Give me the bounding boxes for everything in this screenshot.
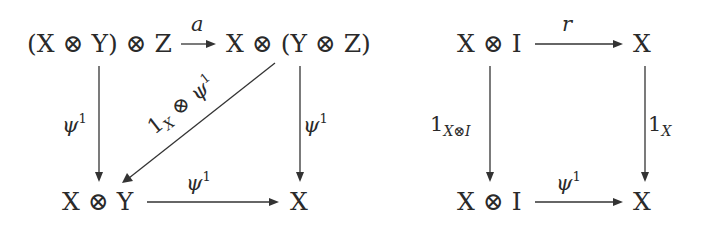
node-text: X [633, 187, 651, 216]
label-psi-bottom: ψ1 [186, 170, 211, 194]
superscript: 1 [319, 111, 327, 126]
node-x-y: X ⊗ Y [62, 189, 133, 214]
psi-symbol: ψ [303, 113, 319, 137]
superscript: 1 [78, 111, 86, 126]
node-x: X [290, 189, 308, 214]
arrow-r [535, 40, 623, 48]
label-r: r [562, 14, 572, 35]
label-identity-xi: 1X⊗I [430, 114, 471, 138]
label-text: r [562, 12, 572, 36]
node-text: (X ⊗ Y) ⊗ Z [27, 29, 172, 58]
node-text: X [290, 187, 308, 216]
arrow-bottom-psi-2 [535, 198, 623, 206]
label-psi-right: ψ1 [303, 112, 328, 136]
psi-symbol: ψ [556, 171, 572, 195]
node-x-i-bottom: X ⊗ I [457, 189, 522, 214]
node-x-i-top: X ⊗ I [457, 31, 522, 56]
label-psi-bottom-2: ψ1 [556, 170, 581, 194]
node-text: X ⊗ (Y ⊗ Z) [226, 29, 371, 58]
node-x-top: X [633, 31, 651, 56]
arrow-left-psi [95, 66, 103, 182]
node-x-yz: X ⊗ (Y ⊗ Z) [226, 31, 371, 56]
psi-symbol: ψ [186, 171, 202, 195]
superscript: 1 [202, 169, 210, 184]
node-text: X [633, 29, 651, 58]
arrow-a [181, 40, 216, 48]
label-text: a [191, 12, 204, 36]
arrow-left-identity [486, 66, 494, 182]
psi-symbol: ψ [62, 113, 78, 137]
node-xy-z: (X ⊗ Y) ⊗ Z [27, 31, 172, 56]
node-text: X ⊗ I [457, 29, 522, 58]
arrow-bottom-psi [147, 198, 279, 206]
subscript: X⊗I [443, 123, 470, 139]
node-text: X ⊗ Y [62, 187, 133, 216]
label-a: a [191, 14, 204, 35]
subscript: X [661, 123, 671, 139]
label-psi-left: ψ1 [62, 112, 87, 136]
commutative-diagrams: (X ⊗ Y) ⊗ Z X ⊗ (Y ⊗ Z) X ⊗ Y X a ψ1 ψ1 … [0, 0, 702, 228]
one-symbol: 1 [430, 112, 443, 136]
node-text: X ⊗ I [457, 187, 522, 216]
label-identity-x: 1X [648, 114, 671, 138]
node-x-bottom: X [633, 189, 651, 214]
superscript: 1 [572, 169, 580, 184]
one-symbol: 1 [648, 112, 661, 136]
